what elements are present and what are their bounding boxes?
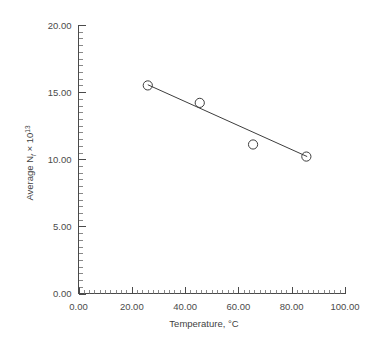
x-tick-label: 100.00 [330, 301, 359, 312]
x-tick-label: 80.00 [280, 301, 304, 312]
y-tick-label: 0.00 [53, 288, 72, 299]
x-axis-title: Temperature, °C [169, 318, 238, 329]
data-point-marker [248, 140, 257, 149]
x-tick-label: 20.00 [120, 301, 144, 312]
chart-figure: 0.0020.0040.0060.0080.00100.00 0.005.001… [0, 0, 371, 339]
data-point-marker [143, 81, 152, 90]
y-tick-label: 5.00 [53, 221, 72, 232]
y-tick-label: 20.00 [48, 20, 72, 31]
data-point-marker [195, 98, 204, 107]
y-tick-label: 10.00 [48, 154, 72, 165]
y-tick-label: 15.00 [48, 87, 72, 98]
x-tick-label: 60.00 [227, 301, 251, 312]
x-tick-label: 40.00 [173, 301, 197, 312]
y-axis-title: Average Nf × 1013 [24, 125, 37, 201]
data-point-marker [302, 152, 311, 161]
x-tick-label: 0.00 [69, 301, 88, 312]
